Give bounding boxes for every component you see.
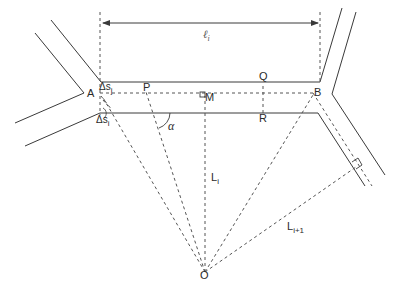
label-B: B — [314, 87, 321, 98]
OP-line — [146, 92, 205, 272]
ell-i-sub: i — [208, 34, 210, 43]
label-M: M — [205, 92, 214, 103]
label-Q: Q — [259, 71, 268, 82]
right-wedge-edge — [332, 12, 385, 175]
delta-s-j-base: Δs — [99, 81, 111, 92]
O-foot-line-Li1 — [205, 167, 356, 272]
L-i-sub: i — [217, 177, 219, 186]
delta-s-i-base: Δs — [96, 114, 108, 125]
label-P: P — [143, 82, 150, 93]
delta-s-i-sub: i — [108, 119, 110, 128]
right-branch-centerline — [313, 93, 372, 186]
delta-s-j-sub: j — [111, 86, 113, 95]
label-A: A — [87, 88, 94, 99]
label-ell-i: ℓi — [203, 29, 210, 43]
label-alpha: α — [168, 120, 174, 132]
label-L-i-plus-1: Li+1 — [287, 221, 304, 235]
label-delta-s-i: Δsi — [96, 115, 109, 128]
label-R: R — [259, 113, 267, 124]
label-O: O — [200, 270, 209, 281]
OA-line — [102, 96, 205, 272]
upper-left-outer-edge — [51, 20, 101, 82]
left-wedge-edge — [15, 33, 84, 123]
lower-right-inner-edge — [318, 113, 365, 186]
road-geometry-diagram — [0, 0, 395, 293]
label-L-i: Li — [211, 172, 219, 186]
lower-left-outer-edge — [25, 113, 100, 146]
delta-s-left-dashes — [101, 96, 112, 110]
L-i1-sub: i+1 — [293, 226, 304, 235]
construction-lines — [100, 12, 372, 272]
label-delta-s-j: Δsj — [99, 82, 112, 95]
